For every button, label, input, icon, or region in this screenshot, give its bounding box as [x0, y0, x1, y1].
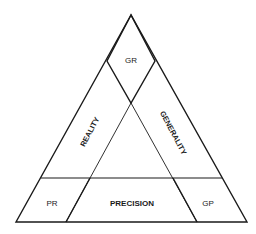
label-gr: GR: [125, 56, 137, 65]
outer-triangle: [16, 15, 247, 222]
pr-right-edge: [66, 178, 90, 222]
label-gp: GP: [202, 199, 214, 208]
triangle-diagram: GR REALITY GENERALITY PR PRECISION GP: [0, 0, 256, 234]
label-pr: PR: [46, 199, 57, 208]
label-generality: GENERALITY: [158, 109, 189, 156]
label-reality: REALITY: [78, 116, 101, 149]
gp-left-edge: [173, 178, 197, 222]
label-precision: PRECISION: [110, 199, 154, 208]
